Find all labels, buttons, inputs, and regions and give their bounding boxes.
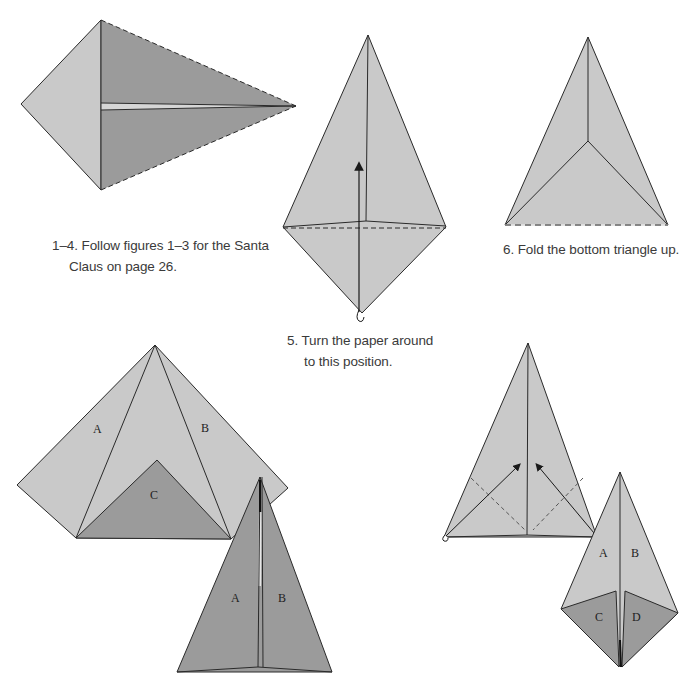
figure-5-diamond <box>283 35 446 322</box>
figure-6-triangle <box>505 37 668 225</box>
caption-line: 5. Turn the paper around <box>287 333 433 348</box>
caption-step-5: 5. Turn the paper around to this positio… <box>287 330 433 372</box>
label-c: C <box>150 488 158 502</box>
label-a: A <box>93 422 102 436</box>
caption-step-6: 6. Fold the bottom triangle up. <box>503 239 679 260</box>
figure-9-fold-sides <box>443 343 597 541</box>
label-a: A <box>231 591 240 605</box>
label-b: B <box>631 546 639 560</box>
caption-line: Claus on page 26. <box>52 256 269 277</box>
caption-line: 6. Fold the bottom triangle up. <box>503 242 679 257</box>
label-b: B <box>201 421 209 435</box>
caption-line: to this position. <box>287 351 433 372</box>
caption-line: 1–4. Follow figures 1–3 for the Santa <box>52 238 269 253</box>
label-a: A <box>599 546 608 560</box>
caption-step-1-4: 1–4. Follow figures 1–3 for the Santa Cl… <box>52 235 269 277</box>
figure-1-4-kite <box>21 20 296 190</box>
label-b: B <box>278 591 286 605</box>
label-c: C <box>595 610 603 624</box>
label-d: D <box>632 610 641 624</box>
